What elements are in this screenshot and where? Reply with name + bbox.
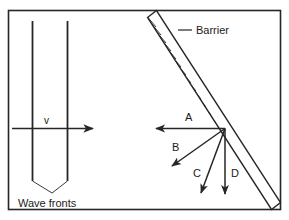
wave-fronts-leaders [33, 181, 68, 193]
velocity-label: v [44, 115, 49, 126]
ray-a-label: A [185, 111, 193, 123]
wave-fronts-label: Wave fronts [18, 197, 77, 209]
barrier-band [148, 11, 281, 210]
ray-d-label: D [231, 167, 239, 179]
rays [156, 129, 225, 195]
barrier: Barrier [145, 11, 281, 220]
figure-canvas: Wave fronts v [0, 0, 289, 219]
wave-fronts-leader-left [33, 181, 53, 193]
ray-b-label: B [172, 141, 179, 153]
wave-fronts-leader-right [52, 181, 68, 193]
wave-barrier-figure: Wave fronts v [0, 0, 289, 219]
barrier-label: Barrier [196, 24, 229, 36]
figure-border [9, 11, 281, 210]
ray-b-line [172, 129, 225, 167]
ray-c-line [201, 129, 225, 194]
ray-c-label: C [193, 167, 201, 179]
wave-front-lines [33, 21, 68, 181]
